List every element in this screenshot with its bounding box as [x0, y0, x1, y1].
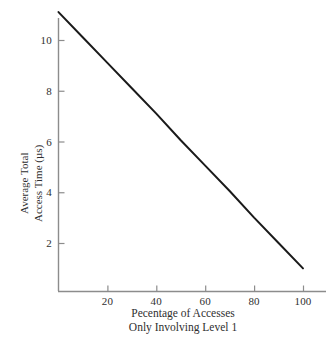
- y-tick-label: 10: [20, 35, 52, 46]
- x-axis-title-line-2: Only Involving Level 1: [58, 320, 308, 334]
- data-line: [59, 12, 304, 268]
- x-axis-title-line-1: Pecentage of Accesses: [58, 306, 308, 320]
- data-series-group: [59, 12, 304, 268]
- y-tick-label: 4: [20, 187, 52, 198]
- x-axis-ticks: [108, 286, 304, 292]
- y-axis-ticks: [59, 41, 65, 244]
- chart-figure: 246810 20406080100 Average Total Access …: [0, 0, 336, 344]
- x-axis-title: Pecentage of Accesses Only Involving Lev…: [58, 306, 308, 334]
- plot-area: [0, 0, 336, 344]
- y-tick-label: 6: [20, 136, 52, 147]
- y-tick-label: 8: [20, 85, 52, 96]
- y-tick-label: 2: [20, 238, 52, 249]
